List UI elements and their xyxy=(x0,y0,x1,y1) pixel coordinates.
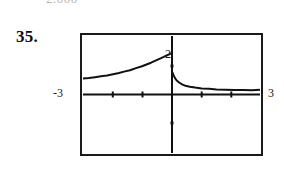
graph-figure: 2 -2 -3 3 xyxy=(80,33,263,156)
curve-left-branch xyxy=(83,53,172,78)
window-label-xmin: -3 xyxy=(53,86,63,101)
clipped-text-above: 2.000 xyxy=(46,0,106,3)
window-label-ymax: 2 xyxy=(165,47,171,62)
exercise-number: 35. xyxy=(16,27,38,47)
curve-right-branch xyxy=(172,72,260,90)
window-label-xmax: 3 xyxy=(268,86,274,101)
graph-plot xyxy=(80,33,263,156)
